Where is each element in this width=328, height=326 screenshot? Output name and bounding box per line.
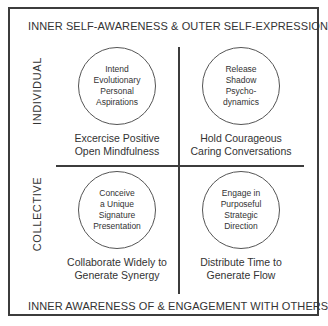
horizontal-divider xyxy=(56,165,304,167)
quadrant-caption-individual-outer: Hold Courageous Caring Conversations xyxy=(171,132,311,158)
top-axis-label: INNER SELF-AWARENESS & OUTER SELF-EXPRES… xyxy=(28,20,318,32)
quadrant-circle-collective-inner: Conceive a Unique Signature Presentation xyxy=(78,171,156,249)
row-label-individual: INDIVIDUAL xyxy=(31,57,43,125)
quadrant-caption-collective-outer: Distribute Time to Generate Flow xyxy=(171,256,311,282)
row-label-collective: COLLECTIVE xyxy=(31,177,43,251)
diagram-frame: INNER SELF-AWARENESS & OUTER SELF-EXPRES… xyxy=(8,7,319,316)
circle-text: Engage in Purposeful Strategic Direction xyxy=(221,188,262,232)
quadrant-caption-collective-inner: Collaborate Widely to Generate Synergy xyxy=(47,256,187,282)
quadrant-circle-individual-inner: Intend Evolutionary Personal Aspirations xyxy=(78,47,156,125)
circle-text: Release Shadow Psycho- dynamics xyxy=(223,64,259,108)
bottom-axis-label: INNER AWARENESS OF & ENGAGEMENT WITH OTH… xyxy=(28,300,318,312)
quadrant-circle-individual-outer: Release Shadow Psycho- dynamics xyxy=(202,47,280,125)
circle-text: Conceive a Unique Signature Presentation xyxy=(93,188,141,232)
quadrant-circle-collective-outer: Engage in Purposeful Strategic Direction xyxy=(202,171,280,249)
quadrant-caption-individual-inner: Excercise Positive Open Mindfulness xyxy=(47,132,187,158)
circle-text: Intend Evolutionary Personal Aspirations xyxy=(94,64,141,108)
